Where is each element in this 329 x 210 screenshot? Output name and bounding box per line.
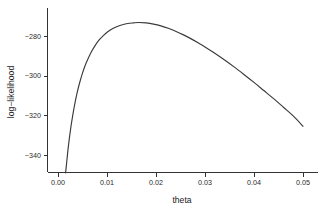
y-tick-label: −340 (25, 151, 41, 160)
x-tick-label: 0.04 (247, 178, 261, 187)
y-axis-title: log−likelihood (6, 66, 16, 119)
x-axis-title: theta (172, 195, 191, 205)
y-tick-label: −320 (25, 111, 41, 120)
y-tick-label: −280 (25, 32, 41, 41)
x-tick-label: 0.01 (100, 178, 114, 187)
x-tick-label: 0.02 (149, 178, 163, 187)
plot-background (0, 0, 329, 210)
x-tick-label: 0.05 (296, 178, 310, 187)
log-likelihood-line-chart: −280−300−320−340 0.000.010.020.030.040.0… (0, 0, 329, 210)
chart-figure: −280−300−320−340 0.000.010.020.030.040.0… (0, 0, 329, 210)
x-tick-label: 0.00 (51, 178, 65, 187)
y-tick-label: −300 (25, 71, 41, 80)
x-tick-label: 0.03 (198, 178, 212, 187)
